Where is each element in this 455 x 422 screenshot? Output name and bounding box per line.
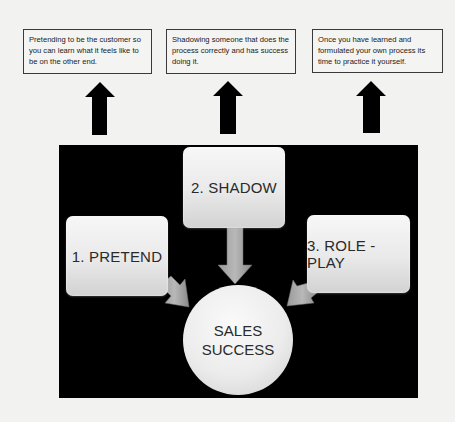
step-pretend: 1. PRETEND <box>66 216 168 296</box>
step-shadow: 2. SHADOW <box>183 147 285 228</box>
step-pretend-label: 1. PRETEND <box>72 248 162 265</box>
sales-success-hub: SALES SUCCESS <box>183 285 293 395</box>
down-arrow-icon <box>218 228 252 284</box>
hub-line-2: SUCCESS <box>202 340 275 359</box>
step-role-play: 3. ROLE -PLAY <box>307 215 410 293</box>
hub-line-1: SALES <box>214 321 262 340</box>
step-shadow-label: 2. SHADOW <box>191 179 277 196</box>
step-role-play-label: 3. ROLE -PLAY <box>307 237 410 271</box>
